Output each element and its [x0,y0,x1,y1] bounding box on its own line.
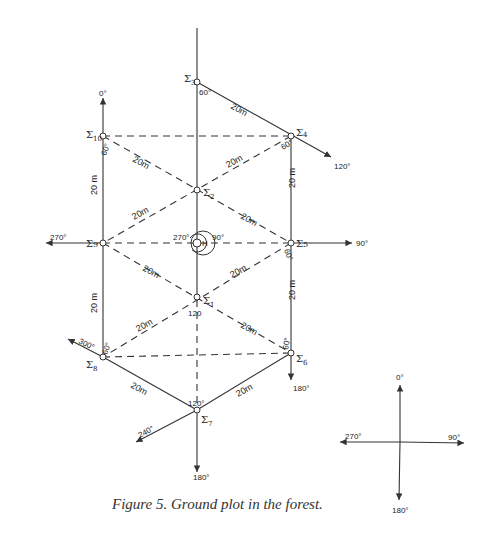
svg-text:180°: 180° [293,384,310,393]
svg-text:270°: 270° [345,432,362,441]
svg-text:H: H [202,239,208,248]
svg-text:60°: 60° [282,248,295,262]
svg-text:20m: 20m [141,263,161,280]
sigma4-label: Σ4 [296,127,308,139]
sigma8-sigma7-line [103,357,197,410]
svg-text:20 m: 20 m [89,293,99,313]
sigma10-label: Σ10 [86,129,102,143]
svg-text:0°: 0° [396,373,404,382]
svg-text:240°: 240° [137,424,156,440]
svg-text:20 m: 20 m [287,280,297,300]
svg-text:120: 120 [188,309,202,318]
svg-text:20m: 20m [229,101,249,118]
sigma7-sigma6-line [197,353,291,410]
sigma2-label: Σ2 [203,187,215,201]
svg-text:20 m: 20 m [89,175,99,195]
svg-text:270°: 270° [50,233,67,242]
svg-text:90°: 90° [448,433,460,442]
svg-text:120°: 120° [188,399,205,408]
svg-text:20m: 20m [134,317,154,334]
svg-text:20m: 20m [131,154,151,171]
svg-text:90°: 90° [212,233,224,242]
compass-rose: 0° 90° 180° 270° [340,373,464,515]
svg-text:60°: 60° [280,138,295,152]
svg-text:60°: 60° [100,341,113,355]
sigma5-label: Σ5 [296,238,308,249]
svg-text:20m: 20m [129,380,149,397]
ne-bearing-line [197,82,331,157]
svg-text:180°: 180° [392,506,409,515]
svg-text:20m: 20m [224,153,244,170]
sigma1-label: Σ1 [203,295,215,309]
svg-text:300°: 300° [77,337,96,352]
sigma6-label: Σ6 [296,353,308,367]
svg-text:180°: 180° [193,473,210,482]
svg-text:20m: 20m [239,320,259,337]
svg-text:20m: 20m [239,211,259,228]
svg-text:270°: 270° [173,233,190,242]
svg-text:90°: 90° [356,239,368,248]
figure-caption: Figure 5. Ground plot in the forest. [112,496,323,513]
svg-text:60°: 60° [99,142,112,156]
svg-text:20m: 20m [234,382,254,399]
svg-text:60°: 60° [281,337,292,350]
sigma3-label: Σ3 [184,73,196,87]
ground-plot-diagram: H 270° 90° Σ3 60° Σ4 60° Σ10 60° Σ2 Σ9 Σ… [0,0,488,534]
svg-text:120°: 120° [334,162,351,171]
svg-text:0°: 0° [99,89,107,98]
svg-text:60°: 60° [199,88,211,97]
sigma7-label: Σ7 [201,414,213,428]
svg-text:20 m: 20 m [287,168,297,188]
svg-text:20m: 20m [130,205,150,222]
svg-text:20m: 20m [228,263,248,280]
sigma9-label: Σ9 [86,238,98,249]
sigma8-label: Σ8 [86,359,98,373]
